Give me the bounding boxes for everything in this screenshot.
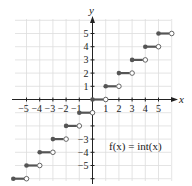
open-endpoint-circle (51, 150, 56, 155)
x-tick-label: −5 (18, 103, 29, 114)
open-endpoint-circle (90, 110, 95, 115)
closed-endpoint-dot (117, 71, 122, 76)
closed-endpoint-dot (64, 124, 69, 129)
closed-endpoint-dot (130, 58, 135, 63)
y-tick-label: 5 (84, 28, 89, 39)
y-tick-label: 1 (84, 81, 89, 92)
step-function-chart: −5−4−3−2−11234554321−3−4−5 x y f(x) = in… (0, 0, 192, 186)
x-tick-label: −2 (58, 103, 69, 114)
open-endpoint-circle (37, 163, 42, 168)
y-tick-label: 4 (84, 41, 89, 52)
closed-endpoint-dot (103, 84, 108, 89)
open-endpoint-circle (169, 31, 174, 36)
x-tick-label: 1 (103, 103, 108, 114)
y-tick-label: 2 (84, 68, 89, 79)
closed-endpoint-dot (51, 137, 56, 142)
x-axis-arrow-icon (171, 97, 178, 102)
x-tick-label: 4 (143, 103, 148, 114)
open-endpoint-circle (64, 137, 69, 142)
open-endpoint-circle (103, 97, 108, 102)
open-endpoint-circle (77, 124, 82, 129)
function-label: f(x) = int(x) (109, 140, 162, 153)
y-tick-label: 3 (84, 54, 89, 65)
x-tick-label: 3 (130, 103, 135, 114)
x-tick-label: −4 (31, 103, 42, 114)
x-axis-label: x (178, 93, 184, 105)
x-tick-label: 2 (116, 103, 121, 114)
open-endpoint-circle (156, 44, 161, 49)
closed-endpoint-dot (156, 31, 161, 36)
open-endpoint-circle (130, 71, 135, 76)
closed-endpoint-dot (37, 150, 42, 155)
y-axis-arrow-icon (90, 16, 95, 23)
y-tick-label: −3 (78, 134, 89, 145)
y-tick-label: −5 (78, 160, 89, 171)
open-endpoint-circle (117, 84, 122, 89)
closed-endpoint-dot (11, 176, 16, 181)
open-endpoint-circle (143, 58, 148, 63)
x-tick-label: −3 (45, 103, 56, 114)
open-endpoint-circle (24, 176, 29, 181)
closed-endpoint-dot (90, 97, 95, 102)
y-axis-label: y (88, 4, 94, 16)
y-tick-label: −4 (78, 147, 89, 158)
closed-endpoint-dot (143, 44, 148, 49)
closed-endpoint-dot (77, 110, 82, 115)
closed-endpoint-dot (24, 163, 29, 168)
x-tick-label: 5 (156, 103, 161, 114)
